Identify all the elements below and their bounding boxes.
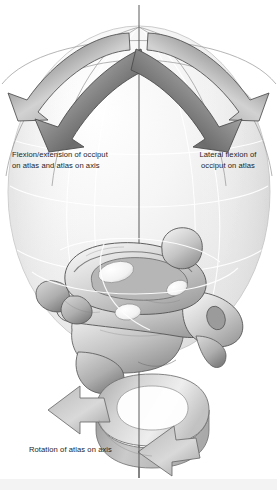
caption-lateral-flexion: Lateral flexion of occiput on atlas <box>186 150 270 171</box>
caption-rotation: Rotation of atlas on axis <box>29 445 154 456</box>
anatomy-figure: Flexion/extension of occiput on atlas an… <box>0 0 277 490</box>
bottom-band <box>0 479 277 490</box>
rotation-layer <box>0 0 277 490</box>
rotation-ribbon-arrow <box>48 374 209 476</box>
caption-flexion-extension: Flexion/extension of occiput on atlas an… <box>12 150 147 171</box>
